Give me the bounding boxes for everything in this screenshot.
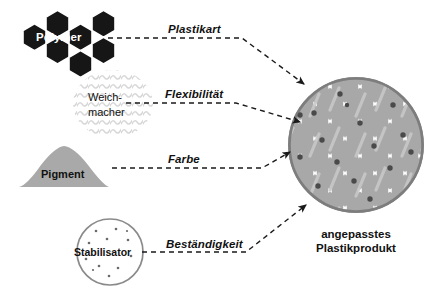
stabilisator-label: Stabilisator — [74, 246, 131, 258]
pigment-label: Pigment — [41, 168, 84, 180]
arrow-group — [108, 38, 306, 252]
pigment-shape — [19, 146, 109, 187]
polymer-shape — [23, 10, 115, 77]
product-caption: angepasstes Plastikprodukt — [296, 228, 416, 255]
polymer-label: Polymer — [36, 31, 81, 43]
arrow-label-bestaendigkeit: Beständigkeit — [166, 238, 243, 250]
weichmacher-label-line1: Weich- — [88, 91, 122, 103]
weichmacher-label-line2: macher — [88, 106, 125, 118]
arrow-farbe — [112, 152, 290, 168]
product-caption-line2: Plastikprodukt — [296, 242, 416, 256]
diagram-canvas: Polymer Weich- macher Pigment Stabilisat… — [0, 0, 439, 294]
arrow-label-flexibilitaet: Flexibilität — [165, 88, 223, 100]
product-shape — [288, 77, 426, 215]
weichmacher-shape — [70, 66, 158, 144]
arrow-label-plastikart: Plastikart — [168, 23, 221, 35]
product-caption-line1: angepasstes — [296, 228, 416, 242]
arrow-label-farbe: Farbe — [168, 153, 200, 165]
